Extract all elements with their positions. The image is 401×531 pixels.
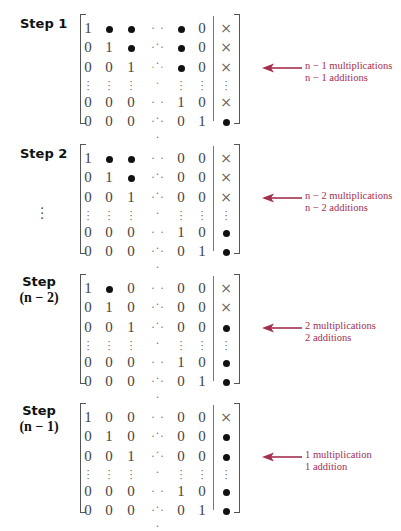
matrix-entry: 0 [174,150,188,166]
augmented-separator [213,276,214,381]
hdots-icon: · · · [148,373,168,405]
matrix-entry: 0 [195,150,209,166]
matrix-entry: 0 [195,319,209,335]
matrix-entry: 0 [102,189,116,205]
bullet-icon [124,169,138,185]
matrix-entry: 1 [174,354,188,370]
matrix-entry: 1 [195,113,209,129]
hdots-icon: · · · [148,448,168,480]
matrix-entry: 0 [102,319,116,335]
matrix-entry: 0 [102,113,116,129]
bullet-icon [174,39,188,55]
matrix-entry: 0 [102,354,116,370]
step-title: Step 2 [20,146,67,162]
vdots-icon: ··· [219,468,233,480]
bullet-icon [219,483,233,499]
vdots-icon: ··· [102,79,116,91]
matrix-entry: 1 [102,169,116,185]
bullet-icon [219,373,233,389]
augmented-separator [213,16,214,121]
matrix-entry: 1 [124,319,138,335]
bullet-icon [219,319,233,335]
step-title: Step 1 [20,16,67,32]
matrix-entry: 0 [124,409,138,425]
matrix-entry: 1 [124,189,138,205]
matrix-entry: 0 [81,169,95,185]
vdots-icon: ··· [81,339,95,351]
matrix-entry: 0 [174,189,188,205]
matrix-entry: 0 [195,280,209,296]
vdots-icon: ··· [195,79,209,91]
matrix-entry: 0 [81,59,95,75]
matrix-entry: 0 [81,94,95,110]
step-label: Step(n − 1) [14,403,64,435]
step-label: Step 1 [20,16,67,32]
matrix-entry: 1 [102,299,116,315]
matrix-entry: 0 [174,319,188,335]
cross-icon: × [219,299,233,315]
operation-count-note: n − 2 multiplicationsn − 2 additions [305,190,392,214]
matrix-entry: 0 [195,224,209,240]
multiplications-count: n − 1 multiplications [305,60,392,72]
cross-icon: × [219,20,233,36]
cross-icon: × [219,280,233,296]
matrix-entry: 0 [124,113,138,129]
cross-icon: × [219,409,233,425]
matrix-entry: 0 [81,354,95,370]
multiplications-count: n − 2 multiplications [305,190,392,202]
vdots-icon: ··· [81,79,95,91]
vdots-icon: ··· [219,209,233,221]
right-bracket [234,14,240,124]
left-arrow-icon [262,193,302,203]
matrix-entry: 0 [124,373,138,389]
vdots-icon: ··· [81,468,95,480]
matrix-entry: 1 [195,243,209,259]
matrix-entry: 0 [124,483,138,499]
matrix-entry: 0 [102,483,116,499]
matrix-entry: 0 [102,373,116,389]
matrix-entry: 0 [102,448,116,464]
step-label: Step 2 [20,146,67,162]
matrix-entry: 0 [81,502,95,518]
bullet-icon [102,20,116,36]
continuation-vdots-icon: ··· [39,206,45,221]
cross-icon: × [219,189,233,205]
additions-count: 2 additions [305,332,376,344]
cross-icon: × [219,39,233,55]
matrix-entry: 0 [195,299,209,315]
matrix-entry: 0 [102,224,116,240]
cross-icon: × [219,94,233,110]
matrix-entry: 0 [81,243,95,259]
matrix-entry: 0 [81,224,95,240]
matrix-entry: 1 [174,224,188,240]
bullet-icon [219,448,233,464]
augmented-separator [213,405,214,510]
step-block-1: Step 11· · ·0×01· · ·0×001· · ·0×·······… [0,14,401,134]
matrix-entry: 0 [174,448,188,464]
bullet-icon [219,354,233,370]
vdots-icon: ··· [195,209,209,221]
matrix-entry: 1 [174,483,188,499]
matrix-entry: 0 [81,319,95,335]
matrix-entry: 0 [195,169,209,185]
matrix-entry: 1 [195,502,209,518]
additions-count: 1 addition [305,461,372,473]
bullet-icon [124,20,138,36]
step-index: (n − 2) [14,290,64,306]
vdots-icon: ··· [81,209,95,221]
right-bracket [234,144,240,254]
step-title: Step [14,274,64,290]
matrix-entry: 0 [174,373,188,389]
matrix-entry: 0 [195,39,209,55]
matrix-entry: 0 [174,502,188,518]
matrix-entry: 0 [174,280,188,296]
bullet-icon [124,150,138,166]
cross-icon: × [219,150,233,166]
matrix-entry: 0 [174,113,188,129]
vdots-icon: ··· [219,79,233,91]
bullet-icon [219,502,233,518]
matrix-entry: 0 [102,243,116,259]
matrix-entry: 0 [124,354,138,370]
vdots-icon: ··· [102,209,116,221]
vdots-icon: ··· [124,468,138,480]
